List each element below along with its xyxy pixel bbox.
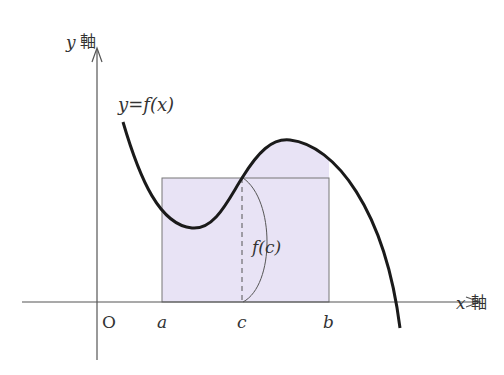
integral-mean-value-diagram: y 軸 x 軸 O a c b y=f(x) f(c): [0, 0, 504, 375]
origin-label: O: [102, 312, 116, 332]
a-label: a: [157, 312, 167, 332]
curve-label: y=f(x): [117, 94, 174, 115]
c-label: c: [237, 312, 247, 332]
b-label: b: [323, 312, 334, 332]
y-axis-kanji-label: 軸: [80, 32, 96, 51]
x-axis-kanji-label: 軸: [471, 293, 487, 312]
fc-label: f(c): [250, 237, 281, 257]
x-axis-var-label: x: [456, 293, 466, 313]
mean-rectangle: [162, 178, 329, 302]
y-axis-var-label: y: [65, 32, 76, 52]
